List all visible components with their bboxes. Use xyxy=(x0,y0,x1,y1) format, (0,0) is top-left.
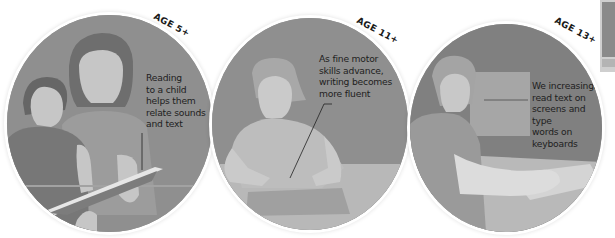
panel-caption: We increasingly read text on screens and… xyxy=(532,80,602,149)
panel-age-5: Reading to a child helps them relate sou… xyxy=(7,15,212,232)
panel-age-11: As fine motor skills advance, writing be… xyxy=(212,18,408,230)
panel-caption: As fine motor skills advance, writing be… xyxy=(319,53,392,99)
panel-age-13: We increasingly read text on screens and… xyxy=(410,24,602,232)
child-writing-illustration xyxy=(212,18,408,230)
next-panel-partial xyxy=(600,0,615,72)
panel-caption: Reading to a child helps them relate sou… xyxy=(146,72,206,130)
